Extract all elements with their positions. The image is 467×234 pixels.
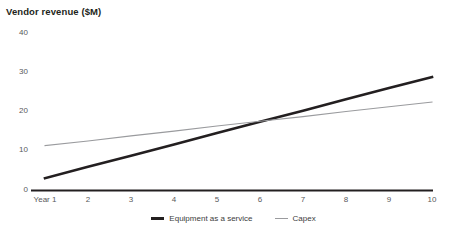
y-axis-tick-0: 0 (4, 185, 28, 194)
legend-item-equipment-as-a-service[interactable]: Equipment as a service (151, 214, 252, 223)
chart-container: Vendor revenue ($M) 010203040 Year 12345… (0, 0, 467, 234)
x-axis-tick-5: 5 (215, 195, 219, 204)
x-axis-tick-10: 10 (428, 195, 437, 204)
legend-label-capex: Capex (293, 214, 316, 223)
x-axis-tick-7: 7 (301, 195, 305, 204)
thick-dark-line-icon (151, 217, 164, 219)
chart-legend: Equipment as a service Capex (0, 214, 467, 223)
thin-gray-line-icon (275, 218, 288, 219)
series-line-equipment-as-a-service (45, 77, 432, 178)
x-axis-tick-9: 9 (387, 195, 391, 204)
legend-item-capex[interactable]: Capex (275, 214, 316, 223)
y-axis-tick-30: 30 (4, 67, 28, 76)
plot-area (0, 0, 467, 234)
legend-label-equipment-as-a-service: Equipment as a service (169, 214, 252, 223)
x-axis-tick-2: 2 (86, 195, 90, 204)
x-axis-tick-8: 8 (344, 195, 348, 204)
y-axis-tick-10: 10 (4, 145, 28, 154)
x-axis-tick-4: 4 (172, 195, 176, 204)
x-axis-tick-6: 6 (258, 195, 262, 204)
x-axis-tick-3: 3 (129, 195, 133, 204)
y-axis-tick-20: 20 (4, 106, 28, 115)
y-axis-tick-40: 40 (4, 28, 28, 37)
series-lines (45, 77, 432, 178)
series-line-capex (45, 102, 432, 146)
x-axis-tick-1: Year 1 (34, 195, 57, 204)
